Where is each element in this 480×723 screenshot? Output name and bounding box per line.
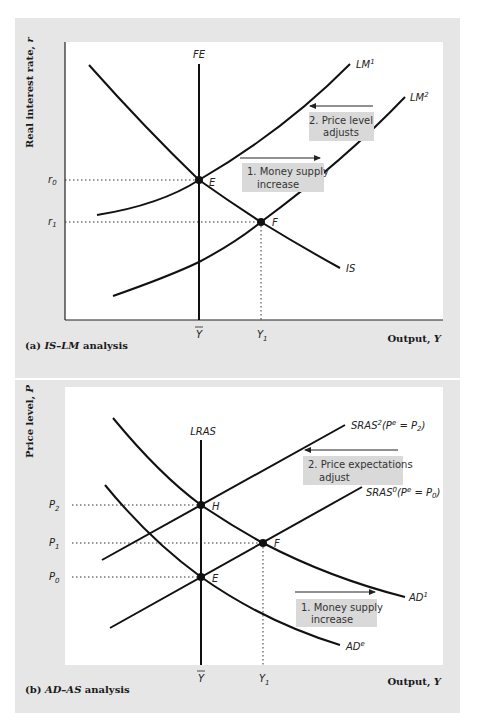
sras2-label: SRAS2(Pe = P2) xyxy=(351,419,425,433)
annotation-text: 1. Money supply xyxy=(301,602,383,613)
x-axis-title-a: Output, Y xyxy=(387,333,441,345)
p1-tick: P1 xyxy=(49,537,60,551)
annotation-text: increase xyxy=(257,179,299,190)
y1-tick-a: Y1 xyxy=(257,329,268,343)
point-f-a xyxy=(257,218,265,226)
is-label: IS xyxy=(346,263,356,274)
y-axis-title-b: Price level, P xyxy=(24,384,36,458)
point-f-label-a: F xyxy=(272,217,278,228)
point-f-label-b: F xyxy=(274,538,280,549)
point-f-b xyxy=(259,539,267,547)
r0-tick: r0 xyxy=(48,174,57,187)
y-axis-title-a: Real interest rate, r xyxy=(24,36,36,148)
point-e-b xyxy=(197,573,205,581)
ybar-tick-a: Y xyxy=(196,329,203,340)
sras0-label: SRAS0(Pe = P0) xyxy=(366,486,440,500)
fe-label: FE xyxy=(193,49,206,60)
p0-tick: P0 xyxy=(49,571,60,585)
caption-b: (b) AD–AS analysis xyxy=(25,684,130,695)
point-e-a xyxy=(195,176,203,184)
annotation-text: 2. Price level xyxy=(309,115,373,126)
annotation-text: adjusts xyxy=(323,127,359,138)
p2-tick: P2 xyxy=(49,499,60,513)
annotation-text: 1. Money supply xyxy=(247,166,329,177)
y1-tick-b: Y1 xyxy=(259,673,270,687)
point-e-label-b: E xyxy=(212,573,219,584)
x-axis-title-b: Output, Y xyxy=(387,676,441,688)
annotation-text: adjust xyxy=(319,472,350,483)
point-h xyxy=(197,501,205,509)
economics-diagram: 2. Price level adjusts 1. Money supply i… xyxy=(0,0,480,723)
lras-label: LRAS xyxy=(190,426,216,437)
point-h-label: H xyxy=(212,501,220,512)
caption-a: (a) IS–LM analysis xyxy=(25,340,128,351)
annotation-text: 2. Price expectations xyxy=(308,459,413,470)
point-e-label-a: E xyxy=(209,177,216,188)
r1-tick: r1 xyxy=(48,216,57,229)
ybar-tick-b: Y xyxy=(198,673,205,684)
annotation-text: increase xyxy=(311,614,353,625)
